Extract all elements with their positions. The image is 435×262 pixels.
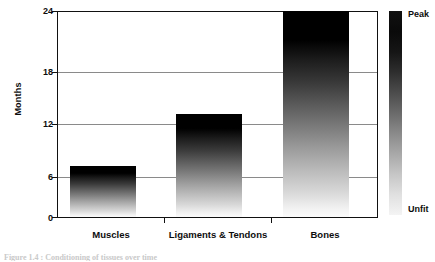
- bar-muscles[interactable]: [70, 166, 136, 218]
- x-tick-mark-2: [271, 218, 272, 223]
- legend-label-peak: Peak: [408, 9, 429, 19]
- x-tick-mark-1: [164, 218, 165, 223]
- plot-area: [57, 11, 378, 218]
- legend-label-unfit: Unfit: [408, 204, 429, 214]
- y-tick-label-18: 18: [27, 67, 53, 77]
- y-tick-label-6: 6: [27, 172, 53, 182]
- y-tick-label-12: 12: [27, 119, 53, 129]
- bar-ligaments-tendons[interactable]: [176, 114, 242, 217]
- x-label-bones: Bones: [271, 229, 379, 240]
- caption-partial: Figure 1.4 : Conditioning of tissues ove…: [4, 254, 244, 261]
- bar-bones[interactable]: [283, 11, 349, 217]
- y-tick-label-24: 24: [27, 6, 53, 16]
- chart-figure: Months 24 18 12 6 0 Muscles Ligaments & …: [0, 0, 435, 262]
- y-tick-label-0: 0: [27, 213, 53, 223]
- x-label-muscles: Muscles: [57, 229, 165, 240]
- x-label-ligaments-tendons: Ligaments & Tendons: [164, 229, 272, 240]
- legend-gradient-bar: [389, 11, 402, 215]
- y-axis-title: Months: [13, 59, 23, 139]
